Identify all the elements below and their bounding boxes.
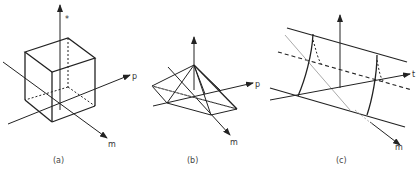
axis-label-p: p [132, 72, 137, 81]
caption-b: (b) [187, 156, 198, 165]
panel-a-cube [3, 5, 130, 138]
axis-label-m: m [395, 143, 403, 152]
figure-canvas: * p m (a) p m (b) [0, 0, 419, 170]
pyramid-base [152, 86, 237, 115]
m-axis [3, 62, 107, 138]
axis-label-vertical: * [65, 15, 69, 24]
axis-label-m: m [108, 140, 116, 149]
axis-label-p: p [255, 80, 260, 89]
caption-c: (c) [336, 156, 347, 165]
axis-label-t: t [412, 70, 415, 79]
panel-c-cylinder [270, 15, 412, 145]
cube-top-face [25, 38, 95, 72]
p-axis [8, 75, 130, 124]
axis-label-m: m [230, 138, 238, 147]
panel-b-pyramid [152, 37, 253, 135]
p-axis [153, 83, 253, 106]
caption-a: (a) [53, 156, 64, 165]
